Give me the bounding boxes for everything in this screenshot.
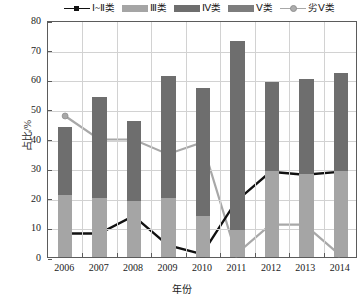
x-axis-tick-labels: 200620072008200920102011201220132014	[0, 0, 364, 295]
x-axis-title: 年份	[162, 281, 202, 295]
chart-container: Ⅰ~Ⅱ类 Ⅲ类 Ⅳ类 Ⅴ类 劣Ⅴ类 01020304050607080 占比/%…	[0, 0, 364, 295]
x-axis-tick-label: 2014	[320, 262, 360, 273]
